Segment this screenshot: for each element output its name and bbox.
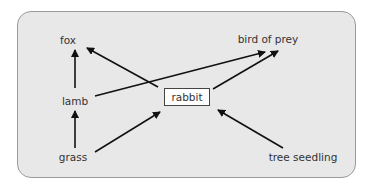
arrow-rabbit-to-fox bbox=[87, 48, 158, 87]
node-rabbit: rabbit bbox=[164, 88, 210, 106]
node-grass: grass bbox=[59, 152, 87, 163]
node-bird-of-prey: bird of prey bbox=[238, 34, 299, 45]
node-lamb: lamb bbox=[62, 96, 88, 107]
node-tree-seedling: tree seedling bbox=[269, 152, 338, 163]
node-rabbit-label: rabbit bbox=[171, 91, 202, 103]
arrow-tree-seedling-to-rabbit bbox=[218, 110, 283, 148]
node-fox: fox bbox=[60, 35, 76, 46]
arrow-grass-to-rabbit bbox=[95, 112, 160, 152]
